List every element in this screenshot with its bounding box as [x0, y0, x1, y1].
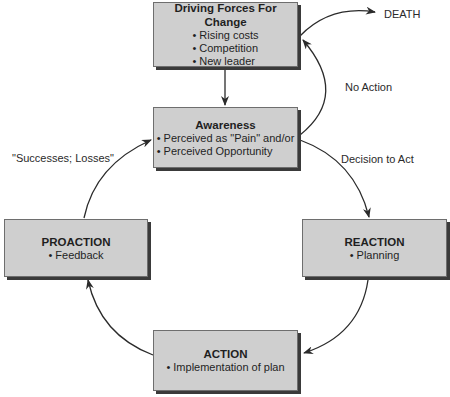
node-title: Driving Forces For Change [154, 1, 297, 29]
bullet-item: Rising costs [192, 29, 258, 42]
arrow-decision-to-act [300, 140, 369, 217]
label-death: DEATH [384, 8, 420, 21]
bullet-list: Perceived as "Pain" and/or Perceived Opp… [157, 132, 295, 158]
bullet-item: Implementation of plan [166, 361, 284, 374]
node-reaction: REACTION Planning [302, 219, 447, 277]
label-successes-losses: "Successes; Losses" [12, 152, 114, 165]
node-title: REACTION [344, 235, 404, 249]
node-action: ACTION Implementation of plan [153, 330, 298, 391]
node-awareness: Awareness Perceived as "Pain" and/or Per… [153, 107, 298, 168]
bullet-list: Planning [350, 249, 400, 262]
node-title: Awareness [195, 118, 256, 132]
bullet-item: Competition [192, 42, 258, 55]
label-no-action: No Action [345, 81, 392, 94]
node-title: PROACTION [42, 235, 111, 249]
arrow-forces-to-death [300, 11, 375, 36]
node-proaction: PROACTION Feedback [4, 219, 148, 277]
bullet-list: Rising costs Competition New leader [192, 29, 258, 68]
node-title: ACTION [203, 347, 247, 361]
arrow-action-to-proaction [88, 280, 153, 355]
bullet-list: Feedback [48, 249, 103, 262]
bullet-item: Planning [350, 249, 400, 262]
bullet-list: Implementation of plan [166, 361, 284, 374]
node-driving-forces: Driving Forces For Change Rising costs C… [153, 2, 298, 67]
label-decision-to-act: Decision to Act [341, 153, 414, 166]
change-cycle-diagram: Driving Forces For Change Rising costs C… [0, 0, 450, 397]
bullet-item: Perceived Opportunity [157, 145, 295, 158]
arrow-reaction-to-action [304, 280, 368, 353]
bullet-item: Perceived as "Pain" and/or [157, 132, 295, 145]
bullet-item: New leader [192, 55, 258, 68]
bullet-item: Feedback [48, 249, 103, 262]
arrow-no-action [300, 40, 326, 135]
